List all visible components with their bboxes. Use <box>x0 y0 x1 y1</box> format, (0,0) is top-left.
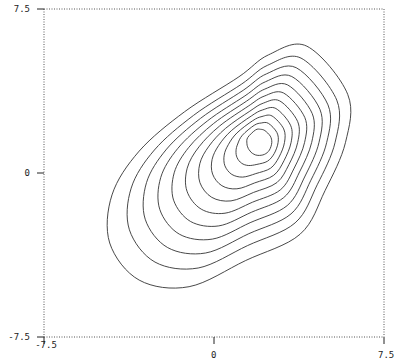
x-tick-label: 0 <box>211 350 216 360</box>
contour-line <box>247 129 272 155</box>
contour-line <box>127 56 340 269</box>
contour-line <box>224 115 285 177</box>
x-tick-label: 7.5 <box>378 350 394 360</box>
contour-plot: -7.507.5-7.507.5 <box>0 0 396 364</box>
axis-ticks: -7.507.5-7.507.5 <box>8 4 394 360</box>
contour-line <box>107 44 351 288</box>
contour-lines <box>107 44 351 288</box>
y-tick-label: 0 <box>25 168 30 178</box>
contour-line <box>143 66 330 254</box>
x-tick-label: -7.5 <box>35 340 57 350</box>
contour-line <box>211 107 292 188</box>
plot-frame <box>44 9 384 337</box>
y-tick-label: -7.5 <box>8 332 30 342</box>
y-tick-label: 7.5 <box>14 4 30 14</box>
